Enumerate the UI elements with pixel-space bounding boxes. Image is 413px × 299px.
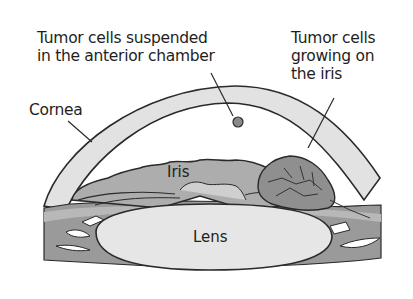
eye-diagram: Tumor cells suspended in the anterior ch… (0, 0, 413, 299)
label-lens: Lens (193, 229, 228, 246)
label-iris: Iris (167, 164, 190, 181)
suspended-tumor-cell (233, 117, 243, 127)
label-cornea: Cornea (29, 101, 82, 119)
label-suspended-cells: Tumor cells suspended in the anterior ch… (37, 29, 215, 65)
label-growing-cells: Tumor cells growing on the iris (291, 29, 375, 83)
